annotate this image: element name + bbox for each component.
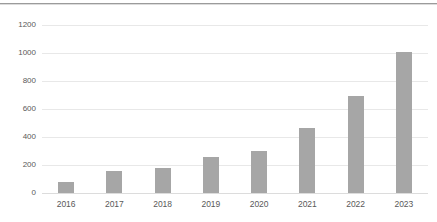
bar-chart: 0200400600800100012002016201720182019202… [0,0,437,222]
bar-2020 [251,151,267,193]
bar-2022 [348,96,364,193]
y-axis-tick-label: 400 [8,132,36,142]
gridline-y-0 [42,193,428,194]
x-axis-tick-label-2022: 2022 [332,199,380,209]
gridline-y-1000 [42,53,428,54]
x-axis-tick-label-2018: 2018 [139,199,187,209]
x-axis-tick-label-2020: 2020 [235,199,283,209]
bar-2021 [299,128,315,193]
y-axis-tick-label: 0 [8,188,36,198]
chart-plot-area: 0200400600800100012002016201720182019202… [0,0,437,222]
gridline-y-1200 [42,25,428,26]
bar-2016 [58,182,74,193]
y-axis-tick-label: 1200 [8,20,36,30]
gridline-y-800 [42,81,428,82]
y-axis-tick-label: 800 [8,76,36,86]
bar-2019 [203,157,219,193]
gridline-y-600 [42,109,428,110]
y-axis-tick-label: 600 [8,104,36,114]
x-axis-tick-label-2017: 2017 [90,199,138,209]
bar-2018 [155,168,171,193]
bar-2023 [396,52,412,193]
x-axis-tick-label-2023: 2023 [380,199,428,209]
x-axis-tick-label-2021: 2021 [283,199,331,209]
gridline-y-400 [42,137,428,138]
x-axis-tick-label-2016: 2016 [42,199,90,209]
y-axis-tick-label: 200 [8,160,36,170]
x-axis-tick-label-2019: 2019 [187,199,235,209]
gridline-y-200 [42,165,428,166]
y-axis-tick-label: 1000 [8,48,36,58]
bar-2017 [106,171,122,193]
